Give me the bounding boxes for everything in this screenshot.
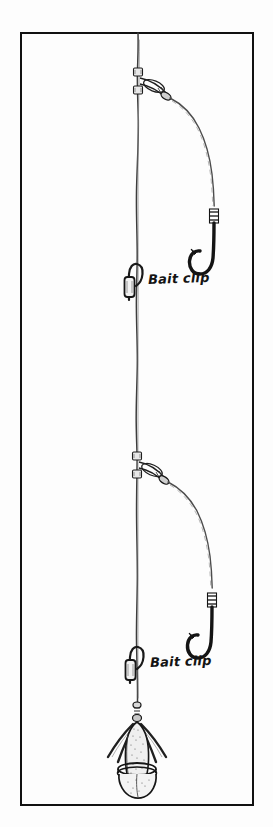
main-line: [136, 33, 139, 702]
fishing-rig-illustration: [0, 0, 273, 827]
lower-hook: [187, 593, 216, 658]
figure-root: Bait clip Bait clip: [0, 0, 273, 827]
bait-clip-label-upper: Bait clip: [148, 270, 210, 287]
upper-bait-clip: [125, 264, 143, 300]
lead-link: [133, 702, 142, 722]
upper-snood: [170, 98, 214, 206]
lower-bait-clip: [126, 647, 144, 683]
lead-sinker-assembly: [108, 702, 166, 798]
bait-clip-label-lower: Bait clip: [150, 653, 212, 670]
lower-snood: [168, 482, 212, 588]
upper-hook: [189, 209, 218, 274]
